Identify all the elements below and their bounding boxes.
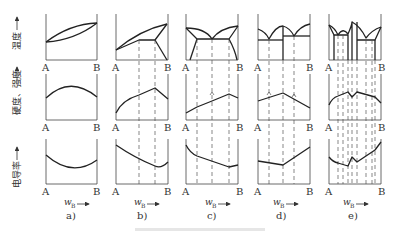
x-axis-label-a: wB	[64, 197, 89, 209]
row-label-temperature: 温度	[11, 17, 22, 50]
svg-text:B: B	[164, 122, 171, 133]
svg-text:A: A	[111, 62, 120, 73]
svg-text:B: B	[71, 202, 76, 209]
svg-text:硬度、强度: 硬度、强度	[11, 70, 22, 115]
svg-text:A: A	[181, 62, 190, 73]
svg-text:B: B	[306, 122, 313, 133]
svg-text:B: B	[378, 122, 385, 133]
row-label-hardness-strength: 硬度、强度	[11, 67, 22, 115]
svg-text:B: B	[280, 202, 285, 209]
svg-text:B: B	[378, 62, 385, 73]
figure-caption-faint	[135, 228, 265, 231]
svg-text:B: B	[141, 202, 146, 209]
axis-endpoint-labels: AB AB AB AB AB AB AB AB AB AB AB AB AB A…	[41, 62, 385, 197]
svg-text:A: A	[324, 62, 333, 73]
caption-c: c)	[207, 210, 217, 221]
svg-text:A: A	[41, 62, 50, 73]
svg-text:A: A	[41, 122, 50, 133]
svg-text:B: B	[93, 186, 100, 197]
svg-text:A: A	[253, 186, 262, 197]
caption-a: a)	[66, 210, 76, 221]
x-axis-labels: wB wB wB wB wB	[64, 197, 368, 209]
x-axis-label-e: wB	[343, 197, 368, 209]
svg-text:B: B	[236, 62, 243, 73]
svg-text:温度: 温度	[11, 32, 22, 50]
svg-text:电导率: 电导率	[11, 161, 22, 188]
svg-text:B: B	[236, 122, 243, 133]
svg-text:A: A	[324, 122, 333, 133]
svg-text:A: A	[253, 62, 262, 73]
row-label-conductivity: 电导率	[11, 147, 22, 188]
svg-text:B: B	[164, 62, 171, 73]
panel-b	[116, 14, 168, 184]
caption-d: d)	[276, 210, 286, 221]
svg-text:B: B	[212, 202, 217, 209]
x-axis-label-b: wB	[134, 197, 159, 209]
svg-text:B: B	[306, 186, 313, 197]
panel-c	[186, 14, 238, 184]
svg-text:B: B	[236, 186, 243, 197]
x-axis-label-d: wB	[273, 197, 298, 209]
svg-text:B: B	[350, 202, 355, 209]
svg-text:B: B	[306, 62, 313, 73]
svg-text:B: B	[93, 122, 100, 133]
panel-e	[329, 14, 381, 184]
caption-b: b)	[137, 210, 147, 221]
panel-a	[46, 14, 97, 184]
svg-text:B: B	[93, 62, 100, 73]
phase-diagram-figure: 温度 硬度、强度 电导率	[0, 0, 396, 235]
svg-text:A: A	[181, 186, 190, 197]
panel-captions: a) b) c) d) e)	[66, 210, 358, 221]
svg-text:A: A	[111, 186, 120, 197]
svg-text:A: A	[324, 186, 333, 197]
svg-text:A: A	[41, 186, 50, 197]
svg-text:A: A	[181, 122, 190, 133]
svg-text:A: A	[253, 122, 262, 133]
svg-text:A: A	[111, 122, 120, 133]
svg-text:B: B	[378, 186, 385, 197]
svg-text:B: B	[164, 186, 171, 197]
panel-d	[258, 14, 310, 184]
x-axis-label-c: wB	[205, 197, 230, 209]
caption-e: e)	[348, 210, 358, 221]
